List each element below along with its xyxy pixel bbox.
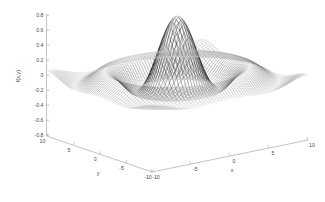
- z-tick-label: -0.2: [35, 87, 44, 93]
- z-tick-label: 0.8: [36, 12, 43, 18]
- x-tick-label: -5: [193, 166, 198, 172]
- x-axis-title: x: [231, 167, 234, 173]
- x-tick-label: 5: [272, 150, 275, 156]
- x-tick-label: 10: [309, 142, 315, 148]
- surface-plot-3d: 0.8 0.6 0.4 0.2 0 -0.2 -0.4 -0.6 -0.8 f(…: [0, 0, 325, 202]
- y-tick-label: 0: [94, 156, 97, 162]
- z-tick-label: 0.2: [36, 57, 43, 63]
- y-tick-label: -10: [144, 174, 152, 180]
- z-axis-title: f(x,y): [15, 70, 21, 82]
- z-tick-label: -0.4: [35, 102, 44, 108]
- figure-canvas: 0.8 0.6 0.4 0.2 0 -0.2 -0.4 -0.6 -0.8 f(…: [0, 0, 325, 202]
- z-tick-label: -0.6: [35, 117, 44, 123]
- y-tick-label: 5: [67, 147, 70, 153]
- z-tick-label: 0: [41, 72, 44, 78]
- x-tick-label: -10: [152, 174, 160, 180]
- z-tick-label: 0.6: [36, 27, 43, 33]
- y-tick-label: 10: [40, 138, 46, 144]
- y-axis-title: y: [97, 170, 100, 176]
- z-tick-label: 0.4: [36, 42, 43, 48]
- y-tick-label: -5: [119, 165, 124, 171]
- x-tick-label: 0: [233, 158, 236, 164]
